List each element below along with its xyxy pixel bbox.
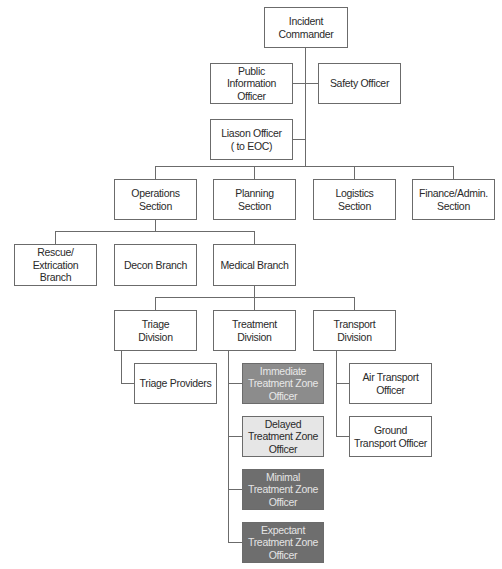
node-decon-branch: Decon Branch: [114, 244, 197, 286]
connector-line: [155, 297, 156, 310]
connector-line: [228, 542, 242, 543]
node-air-transport-officer: Air Transport Officer: [349, 363, 432, 404]
connector-line: [155, 297, 355, 298]
node-minimal-treatment-zone-officer: Minimal Treatment Zone Officer: [242, 469, 324, 510]
node-safety-officer: Safety Officer: [318, 63, 401, 104]
connector-line: [453, 166, 454, 179]
connector-line: [292, 83, 318, 84]
node-logistics-section: Logistics Section: [313, 179, 396, 220]
node-triage-providers: Triage Providers: [134, 363, 217, 404]
node-planning-section: Planning Section: [213, 179, 296, 220]
node-rescue-extrication-branch: Rescue/ Extrication Branch: [14, 244, 97, 286]
connector-line: [254, 286, 255, 297]
node-liaison-officer: Liason Officer ( to EOC): [210, 119, 293, 160]
node-triage-division: Triage Division: [114, 310, 197, 351]
node-expectant-treatment-zone-officer: Expectant Treatment Zone Officer: [242, 522, 324, 563]
node-finance-admin-section: Finance/Admin. Section: [412, 179, 495, 220]
node-immediate-treatment-zone-officer: Immediate Treatment Zone Officer: [242, 363, 324, 404]
node-delayed-treatment-zone-officer: Delayed Treatment Zone Officer: [242, 416, 324, 457]
connector-line: [121, 383, 134, 384]
connector-line: [354, 166, 355, 179]
connector-line: [155, 220, 156, 231]
connector-line: [155, 166, 156, 179]
connector-line: [254, 231, 255, 244]
connector-line: [55, 231, 255, 232]
connector-line: [228, 489, 242, 490]
connector-line: [228, 350, 229, 543]
connector-line: [155, 166, 454, 167]
node-ground-transport-officer: Ground Transport Officer: [349, 416, 432, 457]
connector-line: [336, 436, 349, 437]
node-treatment-division: Treatment Division: [213, 310, 296, 351]
node-operations-section: Operations Section: [114, 179, 197, 220]
node-incident-commander: Incident Commander: [264, 7, 348, 48]
connector-line: [336, 350, 337, 436]
connector-line: [228, 383, 242, 384]
connector-line: [55, 231, 56, 244]
connector-line: [354, 297, 355, 310]
connector-line: [254, 297, 255, 310]
connector-line: [336, 383, 349, 384]
connector-line: [292, 139, 306, 140]
connector-line: [228, 436, 242, 437]
node-transport-division: Transport Division: [313, 310, 396, 351]
node-public-information-officer: Public Information Officer: [210, 63, 293, 104]
connector-line: [305, 47, 306, 166]
connector-line: [254, 166, 255, 179]
connector-line: [121, 350, 122, 383]
node-medical-branch: Medical Branch: [213, 244, 296, 286]
